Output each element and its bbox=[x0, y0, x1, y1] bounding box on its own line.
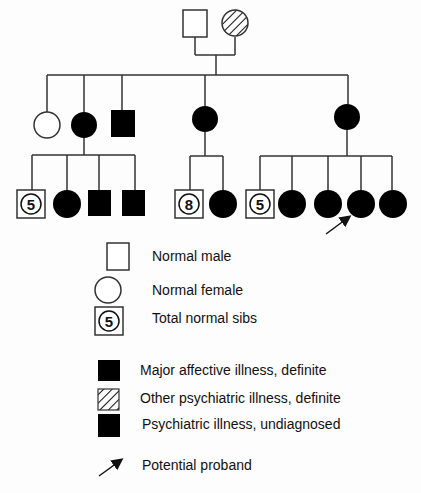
legend-label-normal-female: Normal female bbox=[152, 282, 243, 298]
legend-open-square-icon bbox=[107, 243, 129, 270]
legend-filled-square-icon bbox=[98, 414, 120, 437]
sibs-box-symbol: 5 bbox=[246, 190, 274, 218]
proband-arrow-icon bbox=[326, 217, 349, 234]
svg-text:8: 8 bbox=[185, 196, 193, 213]
affected-male-symbol bbox=[122, 190, 145, 216]
affected-female-symbol bbox=[278, 190, 306, 218]
sibs-box-symbol: 8 bbox=[175, 190, 203, 218]
svg-text:5: 5 bbox=[256, 196, 264, 213]
legend-hatched-square-icon bbox=[98, 389, 119, 410]
legend-filled-square-icon bbox=[98, 360, 120, 381]
affected-female-symbol bbox=[334, 104, 360, 130]
legend-label-total-normal-sibs: Total normal sibs bbox=[152, 310, 257, 326]
affected-female-symbol bbox=[209, 190, 237, 218]
affected-female-symbol bbox=[53, 190, 81, 218]
legend-arrow-icon bbox=[99, 460, 121, 476]
hatched-female-symbol bbox=[222, 10, 248, 36]
affected-female-symbol bbox=[71, 112, 97, 138]
svg-text:5: 5 bbox=[105, 313, 113, 330]
affected-female-symbol bbox=[379, 190, 407, 218]
proband-female-symbol bbox=[347, 190, 375, 218]
sibs-box-symbol: 5 bbox=[17, 190, 45, 218]
legend-label-undiagnosed: Psychiatric illness, undiagnosed bbox=[142, 416, 340, 432]
legend-sibs-box-icon: 5 bbox=[95, 307, 123, 335]
legend-label-proband: Potential proband bbox=[142, 457, 252, 473]
normal-female-symbol bbox=[34, 112, 60, 138]
affected-male-symbol bbox=[111, 110, 135, 137]
affected-female-symbol bbox=[314, 190, 342, 218]
affected-male-symbol bbox=[88, 190, 111, 216]
svg-text:5: 5 bbox=[27, 196, 35, 213]
normal-male-symbol bbox=[183, 10, 207, 37]
legend-open-circle-icon bbox=[95, 277, 121, 303]
affected-female-symbol bbox=[192, 106, 218, 132]
legend-label-other-psychiatric: Other psychiatric illness, definite bbox=[140, 390, 341, 406]
legend-label-major-affective: Major affective illness, definite bbox=[140, 362, 327, 378]
legend-label-normal-male: Normal male bbox=[152, 248, 231, 264]
